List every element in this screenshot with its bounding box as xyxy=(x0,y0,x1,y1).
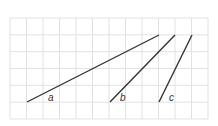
grid-diagram: a b c xyxy=(0,0,218,126)
label-a: a xyxy=(48,92,54,103)
label-c: c xyxy=(169,92,174,103)
grid xyxy=(10,18,208,119)
label-b: b xyxy=(120,92,126,103)
